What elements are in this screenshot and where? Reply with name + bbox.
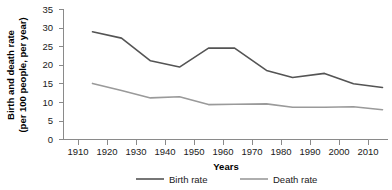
y-axis-title-line1: Birth and death rate bbox=[5, 30, 16, 120]
x-axis-tick-labels: 1910 1920 1930 1940 1950 1960 1970 1980 … bbox=[67, 146, 378, 157]
y-tick-label: 35 bbox=[42, 4, 53, 15]
x-tick-label: 2000 bbox=[328, 146, 349, 157]
x-tick-label: 1920 bbox=[96, 146, 117, 157]
chart-legend: Birth rate Death rate bbox=[136, 174, 317, 185]
x-tick-label: 2010 bbox=[357, 146, 378, 157]
x-tick-label: 1970 bbox=[241, 146, 262, 157]
y-axis-title: Birth and death rate (per 100 people, pe… bbox=[5, 17, 28, 132]
legend-label-death-rate: Death rate bbox=[273, 174, 317, 185]
x-tick-label: 1960 bbox=[212, 146, 233, 157]
x-tick-label: 1990 bbox=[299, 146, 320, 157]
line-chart-svg: Birth and death rate (per 100 people, pe… bbox=[0, 0, 392, 190]
y-axis-tick-labels: 35 30 25 20 15 10 5 0 bbox=[42, 4, 53, 145]
x-tick-label: 1930 bbox=[125, 146, 146, 157]
x-tick-label: 1910 bbox=[67, 146, 88, 157]
chart-figure: Birth and death rate (per 100 people, pe… bbox=[0, 0, 392, 190]
x-axis bbox=[64, 140, 389, 145]
series-line-birth-rate bbox=[93, 32, 383, 88]
y-tick-label: 30 bbox=[42, 22, 53, 33]
y-tick-label: 10 bbox=[42, 97, 53, 108]
x-tick-label: 1980 bbox=[270, 146, 291, 157]
x-tick-label: 1950 bbox=[183, 146, 204, 157]
series-line-death-rate bbox=[93, 83, 383, 109]
x-axis-title: Years bbox=[213, 161, 238, 172]
y-tick-label: 5 bbox=[48, 115, 53, 126]
y-tick-label: 20 bbox=[42, 59, 53, 70]
x-tick-label: 1940 bbox=[154, 146, 175, 157]
y-tick-label: 0 bbox=[48, 134, 53, 145]
y-axis bbox=[59, 9, 64, 140]
plot-area bbox=[93, 32, 383, 110]
legend-label-birth-rate: Birth rate bbox=[169, 174, 208, 185]
y-tick-label: 25 bbox=[42, 41, 53, 52]
y-axis-title-line2: (per 100 people, per year) bbox=[17, 17, 28, 132]
y-tick-label: 15 bbox=[42, 78, 53, 89]
